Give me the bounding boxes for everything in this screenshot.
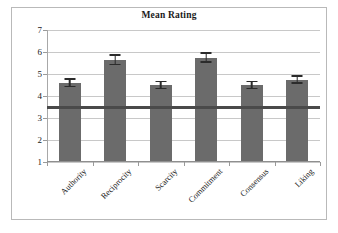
bar [104, 60, 126, 162]
error-bar-cap-bottom [292, 82, 303, 84]
y-axis-tick-label: 5 [12, 69, 42, 79]
bar [286, 80, 308, 163]
error-bar [201, 52, 212, 63]
bar-group [47, 30, 93, 162]
x-axis-tick-label: Reciprocity [100, 167, 134, 201]
error-bar [155, 81, 166, 90]
chart-title: Mean Rating [0, 10, 338, 20]
error-bar-cap-bottom [155, 88, 166, 90]
error-bar [110, 54, 121, 65]
x-axis-labels: AuthorityReciprocityScarcityCommitmentCo… [47, 163, 320, 219]
x-axis-tick-label: Scarcity [153, 167, 179, 193]
y-axis-tick-label: 3 [12, 113, 42, 123]
chart-figure: Mean Rating 1234567 AuthorityReciprocity… [0, 0, 338, 233]
bar-group [229, 30, 275, 162]
plot-area [47, 30, 320, 162]
x-axis-tick-label: Consensus [238, 167, 270, 199]
midpoint-reference-line [47, 106, 320, 109]
y-axis-tick-label: 1 [12, 157, 42, 167]
error-bar [64, 78, 75, 87]
x-axis-tick-label: Liking [293, 167, 315, 189]
bar [150, 85, 172, 162]
x-axis-tick-label: Authority [59, 167, 88, 196]
bar [195, 58, 217, 163]
error-bar [246, 81, 257, 90]
error-bar-cap-top [246, 81, 257, 83]
bar [59, 83, 81, 162]
error-bar [292, 75, 303, 84]
error-bar-cap-bottom [64, 86, 75, 88]
error-bar-cap-top [110, 54, 121, 56]
error-bar-cap-bottom [246, 88, 257, 90]
y-axis-tick-label: 6 [12, 47, 42, 57]
bar-group [138, 30, 184, 162]
bar-series [47, 30, 320, 162]
bar-group [275, 30, 321, 162]
y-axis-tick-label: 7 [12, 25, 42, 35]
error-bar-cap-top [64, 78, 75, 80]
error-bar-cap-top [292, 75, 303, 77]
error-bar-cap-top [201, 52, 212, 54]
x-axis-tick-label: Commitment [187, 167, 225, 205]
bar-group [184, 30, 230, 162]
error-bar-cap-bottom [110, 64, 121, 66]
bar-group [93, 30, 139, 162]
x-axis-tick-mark [320, 162, 321, 166]
y-axis-tick-label: 4 [12, 91, 42, 101]
bar [241, 85, 263, 162]
error-bar-cap-top [155, 81, 166, 83]
y-axis-tick-label: 2 [12, 135, 42, 145]
error-bar-cap-bottom [201, 61, 212, 63]
